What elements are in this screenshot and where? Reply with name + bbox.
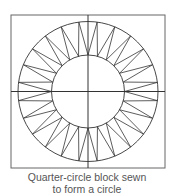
quarter-circle-block-diagram bbox=[0, 0, 174, 172]
caption-line-2: to form a circle bbox=[0, 183, 174, 195]
caption-line-1: Quarter-circle block sewn bbox=[0, 171, 174, 183]
figure-caption: Quarter-circle block sewn to form a circ… bbox=[0, 171, 174, 195]
